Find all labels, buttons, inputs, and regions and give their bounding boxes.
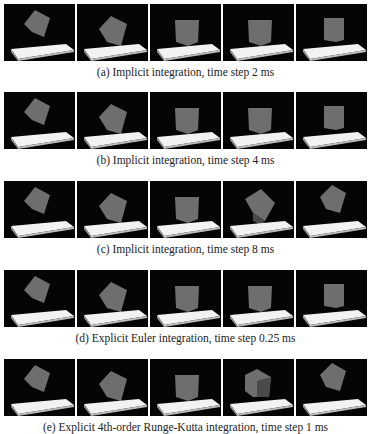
simulation-frame [150, 359, 221, 416]
simulation-frame [4, 4, 75, 61]
simulation-frame [150, 4, 221, 61]
subfigure-caption-c: (c) Implicit integration, time step 8 ms [0, 243, 371, 256]
cube-on-plate-render [150, 359, 221, 416]
cube-on-plate-render [150, 92, 221, 149]
simulation-frame [77, 359, 148, 416]
simulation-frame [296, 359, 367, 416]
simulation-frame [4, 359, 75, 416]
cube-on-plate-render [223, 270, 294, 327]
cube-on-plate-render [296, 359, 367, 416]
cube-on-plate-render [77, 181, 148, 238]
simulation-frame [296, 4, 367, 61]
cube-on-plate-render [150, 270, 221, 327]
cube-on-plate-render [4, 4, 75, 61]
simulation-frame [223, 359, 294, 416]
simulation-frame [77, 4, 148, 61]
simulation-frame [150, 92, 221, 149]
cube-on-plate-render [296, 181, 367, 238]
cube-on-plate-render [223, 181, 294, 238]
subfigure-caption-d: (d) Explicit Euler integration, time ste… [0, 332, 371, 345]
simulation-frame [296, 270, 367, 327]
cube-on-plate-render [223, 359, 294, 416]
cube-on-plate-render [4, 92, 75, 149]
cube-on-plate-render [296, 92, 367, 149]
simulation-frame [223, 270, 294, 327]
simulation-frame [4, 92, 75, 149]
cube-on-plate-render [77, 359, 148, 416]
cube-on-plate-render [150, 4, 221, 61]
simulation-frame [223, 92, 294, 149]
simulation-frame [77, 270, 148, 327]
simulation-frame [77, 181, 148, 238]
simulation-frame [223, 4, 294, 61]
simulation-frame [296, 92, 367, 149]
simulation-frame [77, 92, 148, 149]
simulation-frame [150, 270, 221, 327]
cube-on-plate-render [296, 4, 367, 61]
simulation-frame [150, 181, 221, 238]
cube-on-plate-render [77, 270, 148, 327]
subfigure-caption-a: (a) Implicit integration, time step 2 ms [0, 66, 371, 79]
simulation-frame [4, 181, 75, 238]
cube-on-plate-render [4, 181, 75, 238]
simulation-frame [223, 181, 294, 238]
figure-row-c [4, 181, 367, 238]
cube-on-plate-render [77, 92, 148, 149]
simulation-frame [296, 181, 367, 238]
cube-on-plate-render [223, 92, 294, 149]
subfigure-caption-e: (e) Explicit 4th-order Runge-Kutta integ… [0, 421, 371, 434]
cube-on-plate-render [223, 4, 294, 61]
cube-on-plate-render [4, 359, 75, 416]
subfigure-caption-b: (b) Implicit integration, time step 4 ms [0, 154, 371, 167]
figure-row-e [4, 359, 367, 416]
simulation-frame [4, 270, 75, 327]
figure-row-d [4, 270, 367, 327]
figure-row-b [4, 92, 367, 149]
cube-on-plate-render [77, 4, 148, 61]
cube-on-plate-render [150, 181, 221, 238]
figure-row-a [4, 4, 367, 61]
cube-on-plate-render [296, 270, 367, 327]
cube-on-plate-render [4, 270, 75, 327]
